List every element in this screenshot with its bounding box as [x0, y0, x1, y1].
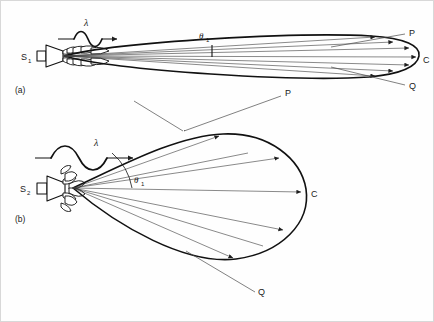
- directivity-diagram: λ S 1 (a): [1, 1, 434, 322]
- point-label-Q-b: Q: [258, 287, 265, 297]
- point-label-C-b: C: [311, 189, 318, 199]
- source-sub-b: 2: [27, 190, 31, 196]
- speaker-magnet-a: [37, 51, 46, 61]
- figure-container: λ S 1 (a): [0, 0, 434, 322]
- ray-b-3-axis: [73, 188, 301, 192]
- leader-P-b: [184, 96, 281, 131]
- speaker-icon-b: [37, 166, 85, 212]
- ray-b-4: [73, 188, 283, 230]
- ray-bundle-b: [73, 136, 301, 258]
- point-label-P-a: P: [409, 28, 415, 38]
- source-label-a: S: [21, 52, 27, 62]
- leader-P-b-seg: [134, 101, 185, 131]
- speaker-cone-b: [47, 176, 65, 201]
- source-sub-a: 1: [28, 58, 32, 64]
- theta-sub-b: 1: [141, 181, 145, 187]
- ray-a-3: [64, 48, 409, 56]
- point-label-C-a: C: [423, 55, 430, 65]
- theta-label-a: θ: [199, 31, 204, 41]
- point-label-Q-a: Q: [409, 81, 416, 91]
- sine-wave-b: [51, 146, 107, 170]
- ray-b-7: [73, 188, 263, 246]
- speaker-magnet-b: [37, 183, 47, 194]
- ray-bundle-a: [64, 37, 416, 76]
- point-label-P-b: P: [285, 88, 291, 98]
- ray-a-2: [64, 42, 393, 56]
- ray-a-7: [64, 56, 375, 76]
- panel-label-a: (a): [15, 85, 26, 95]
- panel-label-b: (b): [15, 214, 26, 224]
- panel-b-group: λ S 2 (b): [15, 88, 318, 297]
- ray-b-6: [73, 153, 248, 188]
- panel-a-group: λ S 1 (a): [15, 17, 430, 95]
- ray-b-5: [73, 188, 233, 258]
- source-label-b: S: [20, 184, 26, 194]
- ray-a-1: [64, 37, 375, 56]
- lambda-label-b: λ: [93, 137, 99, 148]
- lambda-label-a: λ: [83, 17, 89, 28]
- lobe-outline-b: [73, 134, 307, 260]
- speaker-cone-a: [46, 45, 63, 67]
- ray-a-4-axis: [64, 56, 416, 57]
- theta-sub-a: 1: [206, 37, 210, 43]
- theta-label-b: θ: [134, 175, 139, 185]
- sine-wave-a: [74, 32, 102, 47]
- wavelength-indicator-a: [58, 32, 117, 47]
